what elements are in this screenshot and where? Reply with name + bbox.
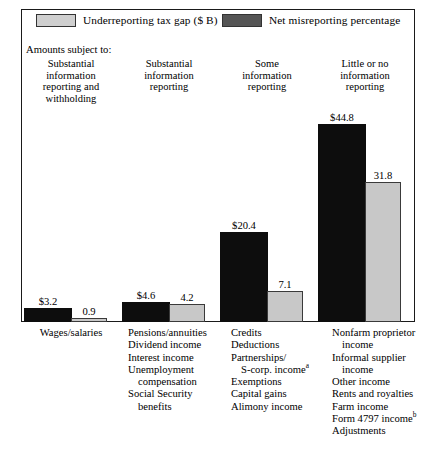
bar-group: $44.8 31.8 bbox=[316, 112, 414, 322]
list-item: Exemptions bbox=[231, 376, 335, 388]
category-list-some-info-reporting: Credits Deductions Partnerships/ S-corp.… bbox=[231, 327, 335, 413]
list-item: Dividend income bbox=[128, 339, 232, 351]
list-item: Alimony income bbox=[231, 401, 335, 413]
column-heading-line: withholding bbox=[28, 93, 114, 105]
bar-group: $20.4 7.1 bbox=[218, 112, 316, 322]
legend-swatch-underreporting-tax-gap bbox=[36, 14, 76, 27]
list-item: Wages/salaries bbox=[22, 327, 120, 339]
chart-column-little-or-no-info-reporting: Little or no information reporting $44.8… bbox=[316, 58, 414, 322]
plot-area: Substantial information reporting and wi… bbox=[22, 58, 414, 322]
list-item: Partnerships/ bbox=[231, 352, 335, 364]
column-heading-line: reporting bbox=[224, 81, 310, 93]
list-item: Nonfarm proprietor bbox=[332, 327, 436, 339]
column-heading-line: information bbox=[224, 70, 310, 82]
bar-underreporting-tax-gap: $3.2 bbox=[24, 308, 72, 322]
legend-swatch-net-misreporting-percentage bbox=[222, 14, 262, 27]
column-heading: Some information reporting bbox=[218, 58, 316, 93]
chart-legend: Underreporting tax gap ($ B) Net misrepo… bbox=[0, 14, 436, 36]
list-item: Adjustments bbox=[332, 425, 436, 437]
list-item-text: S-corp. income bbox=[241, 364, 306, 375]
list-item: Credits bbox=[231, 327, 335, 339]
category-list-substantial-info-reporting-and-withholding: Wages/salaries bbox=[22, 327, 120, 339]
bar-value-label: $20.4 bbox=[232, 220, 256, 232]
list-item: Unemployment bbox=[128, 364, 232, 376]
list-item: compensation bbox=[128, 376, 232, 388]
list-item: Informal supplier bbox=[332, 352, 436, 364]
list-item: Rents and royalties bbox=[332, 388, 436, 400]
column-heading: Substantial information reporting and wi… bbox=[22, 58, 120, 104]
bar-net-misreporting-percentage: 4.2 bbox=[169, 304, 205, 322]
column-heading-line: information bbox=[322, 70, 408, 82]
category-lists: Wages/salaries Pensions/annuities Divide… bbox=[22, 327, 422, 453]
legend-label-net-misreporting-percentage: Net misreporting percentage bbox=[269, 14, 400, 27]
bar-underreporting-tax-gap: $4.6 bbox=[122, 302, 170, 322]
bar-value-label: 31.8 bbox=[374, 170, 393, 182]
bar-value-label: 0.9 bbox=[82, 306, 95, 318]
bar-net-misreporting-percentage: 7.1 bbox=[267, 291, 303, 322]
list-item: income bbox=[332, 339, 436, 351]
chart-column-some-info-reporting: Some information reporting $20.4 7.1 bbox=[218, 58, 316, 322]
bar-group: $4.6 4.2 bbox=[120, 112, 218, 322]
bar-value-label: 4.2 bbox=[180, 292, 193, 304]
list-item: income bbox=[332, 364, 436, 376]
footnote-marker-b: b bbox=[413, 411, 417, 420]
chart-column-substantial-info-reporting: Substantial information reporting $4.6 4… bbox=[120, 58, 218, 322]
list-item: Farm income bbox=[332, 401, 436, 413]
bar-group: $3.2 0.9 bbox=[22, 112, 120, 322]
bar-value-label: 7.1 bbox=[278, 279, 291, 291]
column-heading-line: Substantial bbox=[28, 58, 114, 70]
list-item: Pensions/annuities bbox=[128, 327, 232, 339]
column-heading-line: reporting and bbox=[28, 81, 114, 93]
category-list-substantial-info-reporting: Pensions/annuities Dividend income Inter… bbox=[128, 327, 232, 413]
bar-value-label: $44.8 bbox=[330, 112, 354, 124]
chart-column-substantial-info-reporting-and-withholding: Substantial information reporting and wi… bbox=[22, 58, 120, 322]
column-heading-line: information bbox=[126, 70, 212, 82]
list-item: benefits bbox=[128, 401, 232, 413]
list-item: Social Security bbox=[128, 388, 232, 400]
list-item: Deductions bbox=[231, 339, 335, 351]
list-item: Other income bbox=[332, 376, 436, 388]
list-item: Interest income bbox=[128, 352, 232, 364]
column-heading-line: Some bbox=[224, 58, 310, 70]
legend-entry-net-misreporting-percentage: Net misreporting percentage bbox=[222, 14, 400, 27]
column-heading-line: information bbox=[28, 70, 114, 82]
column-heading-line: reporting bbox=[126, 81, 212, 93]
column-heading: Little or no information reporting bbox=[316, 58, 414, 93]
bar-value-label: $3.2 bbox=[39, 296, 58, 308]
footnote-marker-a: a bbox=[306, 361, 309, 370]
column-heading-line: Substantial bbox=[126, 58, 212, 70]
bar-underreporting-tax-gap: $20.4 bbox=[220, 232, 268, 322]
list-item-text: Form 4797 income bbox=[332, 413, 413, 424]
category-list-little-or-no-info-reporting: Nonfarm proprietor income Informal suppl… bbox=[332, 327, 436, 438]
bar-net-misreporting-percentage: 0.9 bbox=[71, 318, 107, 322]
column-heading: Substantial information reporting bbox=[120, 58, 218, 93]
list-item: Form 4797 incomeb bbox=[332, 413, 436, 425]
list-item: Capital gains bbox=[231, 388, 335, 400]
list-item: S-corp. incomea bbox=[231, 364, 335, 376]
bar-value-label: $4.6 bbox=[137, 290, 156, 302]
column-heading-line: Little or no bbox=[322, 58, 408, 70]
bar-net-misreporting-percentage: 31.8 bbox=[365, 182, 401, 322]
bar-underreporting-tax-gap: $44.8 bbox=[318, 124, 366, 322]
column-heading-line: reporting bbox=[322, 81, 408, 93]
legend-label-underreporting-tax-gap: Underreporting tax gap ($ B) bbox=[83, 14, 218, 27]
amounts-subject-to-label: Amounts subject to: bbox=[26, 44, 111, 56]
legend-entry-underreporting-tax-gap: Underreporting tax gap ($ B) bbox=[36, 14, 218, 27]
